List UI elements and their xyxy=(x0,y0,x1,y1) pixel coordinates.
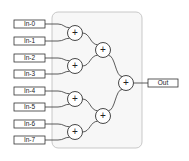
input-3: In-3 xyxy=(14,70,45,78)
input-6: In-6 xyxy=(14,120,45,128)
output-group: Out xyxy=(148,79,178,87)
input-label: In-2 xyxy=(24,54,36,61)
input-label: In-6 xyxy=(24,120,36,127)
adder-node: + xyxy=(68,59,83,74)
output-label: Out xyxy=(158,79,169,86)
input-4: In-4 xyxy=(14,87,45,95)
adder-tree-diagram: In-0In-1In-2In-3In-4In-5In-6In-7 +++++++… xyxy=(0,0,189,161)
plus-icon: + xyxy=(100,44,106,55)
input-2: In-2 xyxy=(14,54,45,62)
input-5: In-5 xyxy=(14,103,45,111)
adder-node: + xyxy=(119,76,134,91)
adder-node: + xyxy=(96,43,111,58)
input-0: In-0 xyxy=(14,20,45,28)
plus-icon: + xyxy=(100,110,106,121)
input-1: In-1 xyxy=(14,37,45,45)
plus-icon: + xyxy=(72,126,78,137)
inputs: In-0In-1In-2In-3In-4In-5In-6In-7 xyxy=(14,20,45,144)
plus-icon: + xyxy=(72,93,78,104)
input-label: In-3 xyxy=(24,70,36,77)
input-7: In-7 xyxy=(14,136,45,144)
adder-node: + xyxy=(68,125,83,140)
input-label: In-5 xyxy=(24,103,36,110)
adder-node: + xyxy=(68,92,83,107)
input-label: In-4 xyxy=(24,87,36,94)
input-label: In-1 xyxy=(24,37,36,44)
adder-node: + xyxy=(68,26,83,41)
input-label: In-7 xyxy=(24,136,36,143)
input-label: In-0 xyxy=(24,20,36,27)
plus-icon: + xyxy=(123,77,129,88)
adder-node: + xyxy=(96,109,111,124)
plus-icon: + xyxy=(72,60,78,71)
plus-icon: + xyxy=(72,27,78,38)
